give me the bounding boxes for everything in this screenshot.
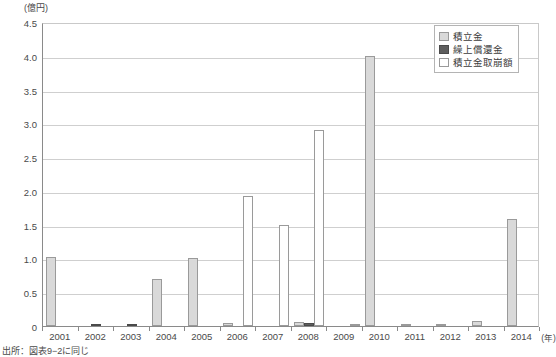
gridline bbox=[43, 159, 538, 160]
source-caption: 出所：図表9−2に同じ bbox=[2, 344, 89, 357]
y-axis-tick-label: 2.0 bbox=[1, 186, 37, 197]
x-axis-tick-mark bbox=[291, 327, 292, 331]
x-axis-tick-mark bbox=[539, 327, 540, 331]
chart-legend: 積立金 繰上償還金 積立金取崩額 bbox=[434, 25, 519, 73]
gridline bbox=[43, 193, 538, 194]
legend-item: 積立金取崩額 bbox=[439, 56, 513, 68]
x-axis-tick-label: 2012 bbox=[440, 331, 461, 342]
x-axis-unit-label: (年) bbox=[541, 331, 556, 343]
x-axis-tick-label: 2009 bbox=[333, 331, 354, 342]
bar bbox=[91, 324, 101, 326]
y-axis-tick-label: 4.0 bbox=[1, 51, 37, 62]
gridline bbox=[43, 92, 538, 93]
gridline bbox=[43, 125, 538, 126]
legend-item-label: 繰上償還金 bbox=[453, 44, 503, 55]
x-axis-tick-mark bbox=[433, 327, 434, 331]
legend-swatch-icon bbox=[439, 32, 449, 41]
bar bbox=[365, 56, 375, 326]
x-axis-tick-mark bbox=[255, 327, 256, 331]
bar bbox=[243, 196, 253, 326]
y-axis-tick-label: 2.5 bbox=[1, 153, 37, 164]
x-axis-tick-label: 2004 bbox=[156, 331, 177, 342]
y-axis-tick-label: 1.5 bbox=[1, 220, 37, 231]
x-axis-tick-mark bbox=[42, 327, 43, 331]
x-axis-tick-label: 2006 bbox=[227, 331, 248, 342]
x-axis-tick-label: 2011 bbox=[405, 331, 425, 342]
bar bbox=[314, 130, 324, 326]
x-axis-tick-label: 2001 bbox=[49, 331, 70, 342]
gridline bbox=[43, 260, 538, 261]
bar bbox=[279, 225, 289, 326]
y-axis-unit-label: (億円) bbox=[24, 1, 48, 14]
x-axis-tick-label: 2007 bbox=[262, 331, 283, 342]
x-axis-tick-mark bbox=[504, 327, 505, 331]
x-axis-tick-label: 2013 bbox=[475, 331, 496, 342]
y-axis-tick-label: 0 bbox=[1, 322, 37, 333]
y-axis-tick-label: 3.5 bbox=[1, 85, 37, 96]
x-axis-tick-mark bbox=[113, 327, 114, 331]
legend-swatch-icon bbox=[439, 45, 449, 54]
bar bbox=[304, 323, 314, 326]
legend-item-label: 積立金取崩額 bbox=[453, 57, 513, 68]
y-axis-tick-label: 3.0 bbox=[1, 119, 37, 130]
gridline bbox=[43, 227, 538, 228]
y-axis-tick-label: 0.5 bbox=[1, 288, 37, 299]
gridline bbox=[43, 294, 538, 295]
y-axis-tick-label: 1.0 bbox=[1, 254, 37, 265]
bar bbox=[507, 219, 517, 326]
bar bbox=[127, 324, 137, 326]
bar bbox=[152, 279, 162, 326]
bar bbox=[401, 324, 411, 326]
bar bbox=[350, 324, 360, 326]
bar bbox=[472, 321, 482, 326]
x-axis-tick-label: 2003 bbox=[120, 331, 141, 342]
bar bbox=[223, 323, 233, 326]
x-axis-tick-mark bbox=[78, 327, 79, 331]
x-axis-tick-mark bbox=[397, 327, 398, 331]
bar bbox=[46, 257, 56, 326]
x-axis-tick-label: 2005 bbox=[191, 331, 212, 342]
bar bbox=[436, 324, 446, 326]
x-axis-tick-mark bbox=[468, 327, 469, 331]
legend-item: 繰上償還金 bbox=[439, 43, 513, 55]
x-axis-tick-mark bbox=[184, 327, 185, 331]
bar bbox=[188, 258, 198, 326]
x-axis-tick-mark bbox=[362, 327, 363, 331]
x-axis-tick-mark bbox=[149, 327, 150, 331]
x-axis-tick-label: 2002 bbox=[85, 331, 106, 342]
legend-item-label: 積立金 bbox=[453, 31, 483, 42]
legend-swatch-icon bbox=[439, 58, 449, 67]
x-axis-tick-label: 2010 bbox=[369, 331, 390, 342]
x-axis-tick-label: 2008 bbox=[298, 331, 319, 342]
x-axis-tick-label: 2014 bbox=[511, 331, 532, 342]
legend-item: 積立金 bbox=[439, 30, 513, 42]
x-axis-tick-mark bbox=[326, 327, 327, 331]
y-axis-tick-label: 4.5 bbox=[1, 18, 37, 29]
bar bbox=[294, 322, 304, 326]
x-axis-tick-mark bbox=[220, 327, 221, 331]
